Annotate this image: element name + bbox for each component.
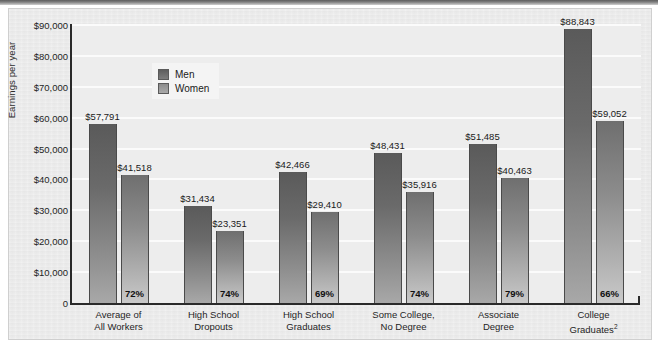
x-axis-category-label: Average ofAll Workers: [94, 309, 142, 332]
scan-edge-band: [0, 0, 658, 5]
x-axis-line: [70, 303, 640, 305]
y-axis-tick-label: $40,000: [6, 174, 68, 185]
gridline: [71, 117, 641, 119]
x-axis-category-label: High SchoolGraduates: [283, 309, 334, 332]
legend-item-women: Women: [158, 81, 209, 95]
bar-men: $57,791: [89, 124, 117, 303]
bar-percent-annotation: 74%: [220, 288, 239, 299]
y-axis-tick-label: $90,000: [6, 20, 68, 31]
bar-value-label: $41,518: [117, 162, 151, 173]
y-axis-tick-label: 0: [6, 298, 68, 309]
bar-men: $48,431: [374, 153, 402, 303]
bar-value-label: $31,434: [180, 193, 214, 204]
y-axis-tick-labels: $90,000$80,000$70,000$60,000$50,000$40,0…: [0, 0, 68, 354]
y-axis-tick-label: $60,000: [6, 112, 68, 123]
x-axis-category-label: CollegeGraduates2: [570, 309, 618, 335]
bar-percent-annotation: 72%: [125, 288, 144, 299]
bar-percent-annotation: 74%: [410, 288, 429, 299]
bar-men: $88,843: [564, 29, 592, 303]
bar-women: $35,91674%: [406, 192, 434, 303]
gridline: [71, 24, 641, 26]
bar-value-label: $88,843: [560, 16, 594, 27]
gridline: [71, 209, 641, 211]
y-axis-tick-label: $20,000: [6, 236, 68, 247]
bar-women: $23,35174%: [216, 231, 244, 303]
x-axis-category-label: AssociateDegree: [478, 309, 519, 332]
x-axis-category-label: Some College,No Degree: [372, 309, 434, 332]
y-axis-line: [70, 24, 72, 305]
bar-value-label: $35,916: [402, 179, 436, 190]
bar-women: $59,05266%: [596, 121, 624, 303]
y-axis-tick-label: $50,000: [6, 143, 68, 154]
bar-value-label: $40,463: [497, 165, 531, 176]
legend-swatch-women-icon: [158, 83, 169, 94]
bar-women: $41,51872%: [121, 175, 149, 303]
gridline: [71, 178, 641, 180]
gridline: [71, 55, 641, 57]
y-axis-tick-label: $80,000: [6, 50, 68, 61]
bar-men: $31,434: [184, 206, 212, 303]
bar-percent-annotation: 69%: [315, 288, 334, 299]
bar-percent-annotation: 66%: [600, 288, 619, 299]
bar-value-label: $23,351: [212, 218, 246, 229]
y-axis-tick-label: $10,000: [6, 267, 68, 278]
y-axis-tick-label: $30,000: [6, 205, 68, 216]
bar-value-label: $42,466: [275, 159, 309, 170]
x-axis-category-label: High SchoolDropouts: [188, 309, 239, 332]
legend-label-men: Men: [175, 69, 194, 80]
bar-percent-annotation: 79%: [505, 288, 524, 299]
legend-item-men: Men: [158, 67, 209, 81]
bar-value-label: $48,431: [370, 140, 404, 151]
legend-swatch-men-icon: [158, 69, 169, 80]
bar-men: $42,466: [279, 172, 307, 303]
bar-value-label: $51,485: [465, 131, 499, 142]
bar-value-label: $29,410: [307, 199, 341, 210]
bar-women: $29,41069%: [311, 212, 339, 303]
bar-value-label: $59,052: [592, 108, 626, 119]
gridline: [71, 240, 641, 242]
bar-value-label: $57,791: [85, 111, 119, 122]
gridline: [71, 271, 641, 273]
legend-label-women: Women: [175, 83, 209, 94]
y-axis-tick-label: $70,000: [6, 81, 68, 92]
bar-women: $40,46379%: [501, 178, 529, 303]
chart-page: Earnings per year $90,000$80,000$70,000$…: [0, 0, 658, 354]
gridline: [71, 148, 641, 150]
chart-legend: Men Women: [152, 63, 219, 99]
x-axis-end-tick: [638, 296, 640, 305]
bar-men: $51,485: [469, 144, 497, 303]
